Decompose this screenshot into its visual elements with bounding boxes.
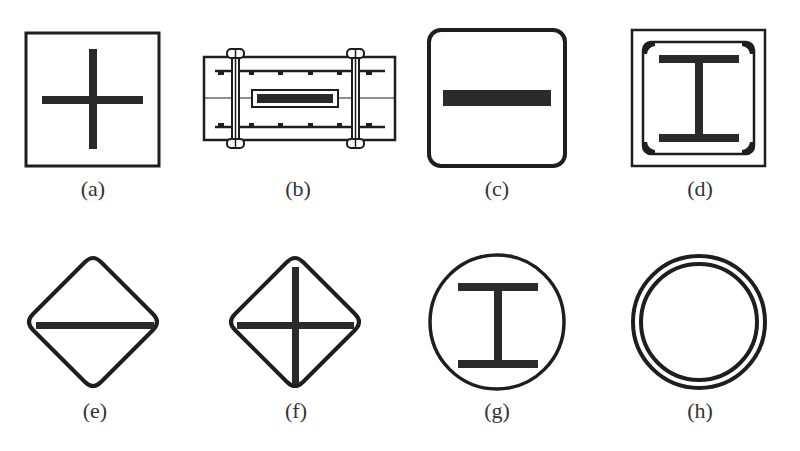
panel-h-double-circle	[633, 256, 765, 388]
cross-section-figure	[0, 0, 800, 451]
panel-g-web	[494, 291, 502, 360]
panel-f-vertical-bar	[292, 267, 299, 384]
panel-label-f: (f)	[266, 398, 326, 424]
panel-d-top-flange	[659, 55, 739, 63]
panel-e-diamond-bar	[29, 258, 157, 386]
panel-g-i-beam-circle	[430, 255, 564, 389]
panel-label-c: (c)	[467, 176, 527, 202]
panel-label-b: (b)	[268, 176, 328, 202]
stud	[249, 71, 254, 75]
stud	[308, 71, 313, 75]
stud	[366, 123, 372, 127]
panel-a-horizontal-bar	[42, 96, 143, 104]
stud	[218, 123, 224, 127]
stud	[308, 123, 313, 127]
panel-label-d: (d)	[670, 176, 730, 202]
panel-g-bottom-flange	[458, 360, 538, 368]
stud	[218, 71, 224, 75]
stud	[337, 71, 342, 75]
panel-c-bar	[443, 90, 551, 106]
panel-h-inner-circle	[641, 264, 757, 380]
panel-b-bolted-section	[204, 49, 395, 148]
panel-label-g: (g)	[467, 398, 527, 424]
stud	[249, 123, 254, 127]
panel-h-outer-circle	[633, 256, 765, 388]
panel-e-bar	[36, 322, 154, 329]
panel-label-h: (h)	[670, 398, 730, 424]
panel-c-rounded-square-bar	[429, 30, 565, 166]
panel-f-diamond-cross	[231, 258, 359, 386]
panel-label-a: (a)	[63, 176, 123, 202]
panel-b-inner-plate	[257, 94, 333, 103]
panel-d-i-beam-square	[632, 30, 765, 166]
stud	[278, 123, 283, 127]
panel-d-web	[695, 63, 703, 134]
panel-g-top-flange	[458, 283, 538, 291]
stud	[278, 71, 283, 75]
panel-label-e: (e)	[65, 398, 125, 424]
stud	[366, 71, 372, 75]
stud	[337, 123, 342, 127]
panel-d-bottom-flange	[659, 134, 739, 142]
panel-a-square-cross	[26, 33, 159, 166]
